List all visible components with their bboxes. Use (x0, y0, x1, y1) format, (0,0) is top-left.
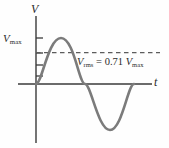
vrms-subscript: rms (83, 61, 93, 68)
vmax-subscript: max (10, 38, 22, 45)
plot-canvas (0, 0, 169, 148)
vmax-symbol: V (3, 32, 10, 44)
vrms-coefficient: 0.71 (105, 56, 123, 67)
t-axis-label: t (154, 76, 157, 88)
ac-sine-wave-figure: V t Vmax Vrms = 0.71 Vmax (0, 0, 169, 148)
vrms-times-subscript: max (132, 61, 144, 68)
v-axis-label: V (31, 3, 38, 15)
vmax-label: Vmax (3, 33, 22, 46)
vrms-annotation: Vrms = 0.71 Vmax (77, 57, 144, 68)
